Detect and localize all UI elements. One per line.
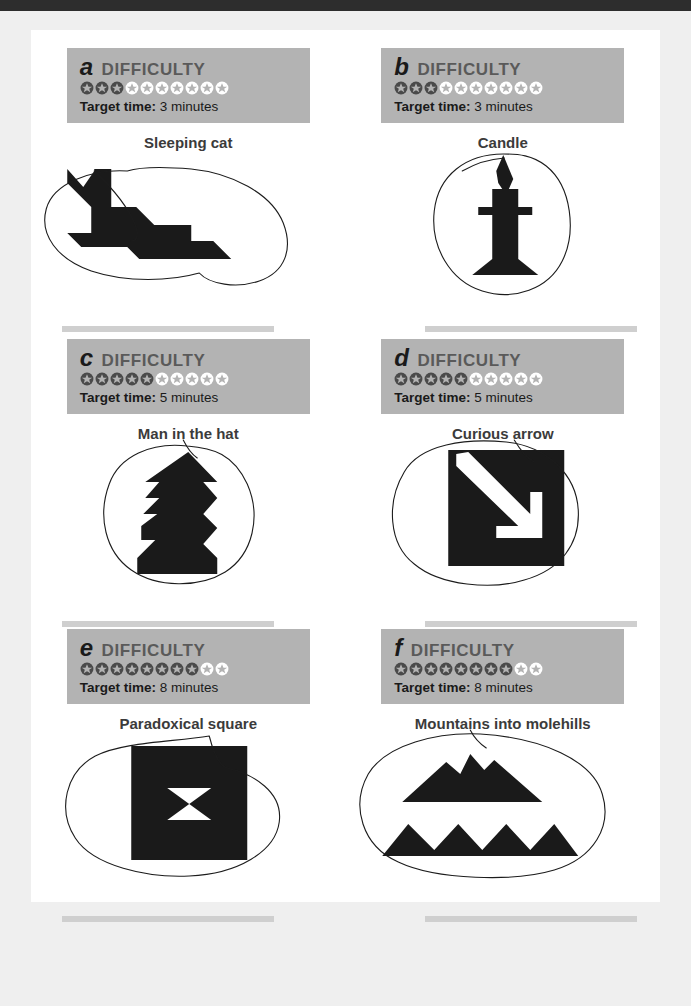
- star-empty-icon: [529, 81, 543, 95]
- target-time-value: 8 minutes: [160, 680, 219, 695]
- star-empty-icon: [155, 372, 169, 386]
- plaque-heading: c DIFFICULTY: [80, 346, 297, 369]
- puzzle-figure-curious-arrow: [346, 440, 661, 590]
- star-filled-icon: [170, 662, 184, 676]
- star-filled-icon: [469, 662, 483, 676]
- difficulty-star-rating: [80, 662, 297, 676]
- hand-drawn-peak-stroke: [470, 730, 486, 748]
- difficulty-label: DIFFICULTY: [102, 349, 206, 372]
- puzzle-letter: e: [80, 636, 93, 659]
- plaque-heading: e DIFFICULTY: [80, 636, 297, 659]
- puzzle-grid: a DIFFICULTY Target time: 3 minutes Slee…: [31, 30, 660, 902]
- star-filled-icon: [424, 81, 438, 95]
- section-rule: [62, 916, 274, 922]
- star-empty-icon: [170, 372, 184, 386]
- star-empty-icon: [200, 662, 214, 676]
- target-time-label: Target time:: [394, 99, 470, 114]
- star-filled-icon: [110, 81, 124, 95]
- puzzle-letter: a: [80, 55, 93, 78]
- star-filled-icon: [439, 662, 453, 676]
- star-empty-icon: [499, 81, 513, 95]
- star-empty-icon: [514, 81, 528, 95]
- puzzle-letter: f: [394, 636, 402, 659]
- puzzle-letter: d: [394, 346, 408, 369]
- target-time: Target time: 5 minutes: [80, 390, 297, 405]
- puzzle-figure-candle: [346, 149, 661, 299]
- target-time-label: Target time:: [394, 680, 470, 695]
- puzzle-figure-paradoxical-square: [31, 730, 346, 880]
- plaque-heading: d DIFFICULTY: [394, 346, 611, 369]
- star-empty-icon: [185, 81, 199, 95]
- target-time: Target time: 8 minutes: [394, 680, 611, 695]
- target-time-label: Target time:: [80, 680, 156, 695]
- star-filled-icon: [454, 662, 468, 676]
- star-filled-icon: [409, 662, 423, 676]
- star-filled-icon: [125, 662, 139, 676]
- star-empty-icon: [469, 372, 483, 386]
- star-filled-icon: [155, 662, 169, 676]
- star-empty-icon: [454, 81, 468, 95]
- star-filled-icon: [409, 81, 423, 95]
- target-time-label: Target time:: [80, 390, 156, 405]
- man-in-the-hat-silhouette: [137, 452, 217, 574]
- puzzle-card-d: d DIFFICULTY Target time: 5 minutes Curi…: [346, 321, 661, 612]
- star-filled-icon: [484, 662, 498, 676]
- star-filled-icon: [125, 372, 139, 386]
- difficulty-star-rating: [394, 662, 611, 676]
- target-time-value: 8 minutes: [474, 680, 533, 695]
- puzzle-card-a: a DIFFICULTY Target time: 3 minutes Slee…: [31, 30, 346, 321]
- star-filled-icon: [140, 372, 154, 386]
- puzzle-caption: Candle: [346, 134, 661, 151]
- star-empty-icon: [170, 81, 184, 95]
- star-filled-icon: [110, 372, 124, 386]
- puzzle-caption: Sleeping cat: [31, 134, 346, 151]
- mountain-large: [402, 754, 542, 802]
- star-filled-icon: [439, 372, 453, 386]
- section-rule: [425, 916, 637, 922]
- scan-top-edge-bar: [0, 0, 691, 11]
- star-empty-icon: [200, 81, 214, 95]
- star-empty-icon: [484, 372, 498, 386]
- difficulty-label: DIFFICULTY: [411, 639, 515, 662]
- star-empty-icon: [215, 372, 229, 386]
- difficulty-plaque: e DIFFICULTY Target time: 8 minutes: [67, 629, 310, 704]
- sleeping-cat-silhouette: [67, 169, 231, 259]
- star-empty-icon: [484, 81, 498, 95]
- star-filled-icon: [80, 372, 94, 386]
- star-empty-icon: [499, 372, 513, 386]
- star-filled-icon: [95, 372, 109, 386]
- star-filled-icon: [454, 372, 468, 386]
- star-filled-icon: [80, 662, 94, 676]
- star-filled-icon: [185, 662, 199, 676]
- difficulty-plaque: f DIFFICULTY Target time: 8 minutes: [381, 629, 624, 704]
- star-filled-icon: [95, 81, 109, 95]
- star-filled-icon: [424, 662, 438, 676]
- target-time-value: 3 minutes: [160, 99, 219, 114]
- difficulty-label: DIFFICULTY: [417, 58, 521, 81]
- target-time: Target time: 3 minutes: [394, 99, 611, 114]
- star-filled-icon: [424, 372, 438, 386]
- star-filled-icon: [110, 662, 124, 676]
- puzzle-letter: b: [394, 55, 408, 78]
- puzzle-card-e: e DIFFICULTY Target time: 8 minutes Para…: [31, 611, 346, 902]
- target-time-value: 3 minutes: [474, 99, 533, 114]
- difficulty-star-rating: [80, 81, 297, 95]
- target-time-value: 5 minutes: [474, 390, 533, 405]
- puzzle-card-f: f DIFFICULTY Target time: 8 minutes Moun…: [346, 611, 661, 902]
- plaque-heading: a DIFFICULTY: [80, 55, 297, 78]
- star-filled-icon: [394, 372, 408, 386]
- target-time: Target time: 5 minutes: [394, 390, 611, 405]
- target-time-label: Target time:: [80, 99, 156, 114]
- target-time-label: Target time:: [394, 390, 470, 405]
- difficulty-plaque: c DIFFICULTY Target time: 5 minutes: [67, 339, 310, 414]
- puzzle-figure-man-in-the-hat: [31, 440, 346, 590]
- star-empty-icon: [439, 81, 453, 95]
- puzzle-caption: Mountains into molehills: [346, 715, 661, 732]
- difficulty-star-rating: [394, 81, 611, 95]
- star-empty-icon: [155, 81, 169, 95]
- difficulty-star-rating: [394, 372, 611, 386]
- target-time: Target time: 8 minutes: [80, 680, 297, 695]
- difficulty-label: DIFFICULTY: [417, 349, 521, 372]
- star-filled-icon: [80, 81, 94, 95]
- puzzle-figure-mountains-into-molehills: [346, 730, 661, 880]
